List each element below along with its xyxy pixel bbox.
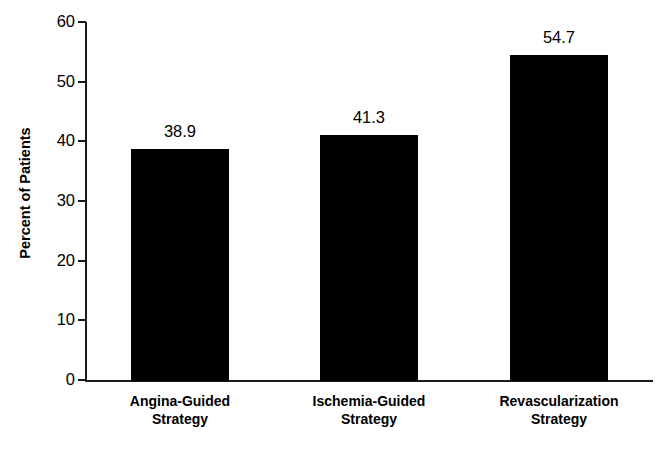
- x-axis-category-label: RevascularizationStrategy: [469, 392, 649, 429]
- bar: [320, 135, 418, 381]
- y-axis-tick: [78, 21, 86, 23]
- y-axis-tick-label: 20: [3, 252, 75, 269]
- y-axis-tick-label: 40: [3, 132, 75, 149]
- category-label-line-2: Strategy: [90, 410, 270, 428]
- y-axis-tick-label: 10: [3, 311, 75, 328]
- bar-value-label: 41.3: [320, 109, 418, 126]
- y-axis-tick: [78, 81, 86, 83]
- y-axis-tick-label: 30: [3, 192, 75, 209]
- y-axis-tick-label: 50: [3, 73, 75, 90]
- x-axis-category-label: Angina-GuidedStrategy: [90, 392, 270, 429]
- y-axis-tick-label: 0: [3, 371, 75, 388]
- y-axis-tick-label: 60: [3, 13, 75, 30]
- bar-value-label: 54.7: [510, 29, 608, 46]
- y-axis-tick: [78, 260, 86, 262]
- y-axis-tick: [78, 319, 86, 321]
- category-label-line-2: Strategy: [469, 410, 649, 428]
- y-axis-tick: [78, 140, 86, 142]
- y-axis-tick: [78, 379, 86, 381]
- bar-value-label: 38.9: [131, 123, 229, 140]
- category-label-line-1: Angina-Guided: [130, 393, 230, 409]
- category-label-line-1: Ischemia-Guided: [313, 393, 426, 409]
- x-axis-category-label: Ischemia-GuidedStrategy: [279, 392, 459, 429]
- category-label-line-2: Strategy: [279, 410, 459, 428]
- bar: [131, 149, 229, 381]
- y-axis-tick: [78, 200, 86, 202]
- category-label-line-1: Revascularization: [499, 393, 618, 409]
- bar: [510, 55, 608, 381]
- bar-chart: Percent of Patients 6050403020100 38.941…: [0, 0, 666, 452]
